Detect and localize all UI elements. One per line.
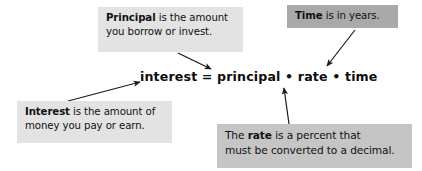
callout-rate-line1: The rate is a percent that	[225, 128, 405, 143]
callout-time: Time is in years.	[287, 5, 398, 28]
formula-text: interest = principal • rate • time	[140, 69, 378, 84]
arrow-interest-to-formula	[68, 82, 140, 101]
callout-time-line1-rest: is in years.	[323, 10, 380, 21]
diagram-canvas: Principal is the amount you borrow or in…	[0, 0, 422, 171]
callout-interest: Interest is the amount of money you pay …	[17, 101, 172, 143]
callout-rate: The rate is a percent that must be conve…	[217, 124, 412, 168]
callout-rate-keyword: rate	[248, 129, 272, 141]
arrow-time-to-formula	[327, 30, 355, 66]
callout-interest-line1: Interest is the amount of	[25, 105, 165, 119]
callout-principal-line2: you borrow or invest.	[106, 25, 236, 39]
callout-rate-line2: must be converted to a decimal.	[225, 143, 405, 158]
callout-interest-line1-rest: is the amount of	[70, 106, 155, 117]
callout-principal: Principal is the amount you borrow or in…	[98, 7, 243, 52]
callout-rate-line1-rest: is a percent that	[272, 129, 361, 141]
callout-time-line1: Time is in years.	[295, 9, 391, 23]
callout-interest-keyword: Interest	[25, 106, 70, 117]
callout-interest-line2: money you pay or earn.	[25, 119, 165, 133]
callout-principal-line1: Principal is the amount	[106, 11, 236, 25]
callout-principal-keyword: Principal	[106, 12, 156, 23]
callout-rate-line1-pre: The	[225, 129, 248, 141]
callout-time-keyword: Time	[295, 10, 323, 21]
callout-principal-line1-rest: is the amount	[156, 12, 228, 23]
arrow-principal-to-formula	[178, 53, 211, 69]
arrow-rate-to-formula	[284, 88, 289, 124]
